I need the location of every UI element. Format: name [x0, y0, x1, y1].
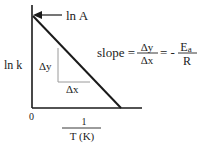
x-axis-label-numerator: 1 [82, 116, 87, 127]
slope-frac2-numerator: Ea [180, 40, 191, 54]
slope-prefix: slope = [97, 45, 135, 60]
origin-label: 0 [29, 111, 34, 122]
intercept-label: ln A [66, 8, 89, 23]
delta-x-label: Δx [66, 83, 79, 95]
arrhenius-diagram: ln A ln k Δy Δx 0 1 T (K) slope = Δy Δx … [0, 0, 204, 146]
y-axis-label: ln k [4, 58, 22, 72]
slope-frac1-numerator: Δy [141, 41, 154, 53]
slope-equals: = - [160, 45, 175, 60]
diagram-svg: ln A ln k Δy Δx 0 1 T (K) slope = Δy Δx … [0, 0, 204, 146]
slope-frac2-denominator: R [183, 54, 191, 68]
delta-y-label: Δy [39, 60, 52, 72]
x-axis-label-denominator: T (K) [70, 130, 95, 143]
slope-frac1-denominator: Δx [141, 54, 154, 66]
